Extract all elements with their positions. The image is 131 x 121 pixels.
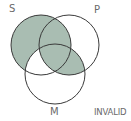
venn-diagram xyxy=(0,0,131,121)
label-p: P xyxy=(94,5,100,15)
verdict-label: INVALID xyxy=(94,108,126,117)
label-m: M xyxy=(50,107,59,117)
label-s: S xyxy=(9,4,15,14)
